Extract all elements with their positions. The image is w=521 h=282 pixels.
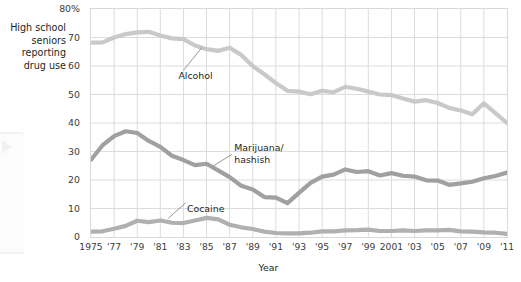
series-label-marijuana: Marijuana/ hashish bbox=[234, 142, 283, 165]
y-tick-10: 10 bbox=[44, 203, 80, 214]
y-tick-80: 80% bbox=[44, 3, 80, 14]
y-tick-60: 60 bbox=[44, 60, 80, 71]
x-axis-title: Year bbox=[0, 262, 521, 273]
y-tick-40: 40 bbox=[44, 117, 80, 128]
chart-figure: High school seniors reporting drug use 0… bbox=[0, 0, 521, 282]
decorative-edge-shape bbox=[0, 132, 24, 254]
series-label-alcohol: Alcohol bbox=[178, 70, 212, 81]
y-tick-70: 70 bbox=[44, 32, 80, 43]
annotation-leader-line bbox=[183, 47, 201, 70]
plot-area bbox=[90, 8, 508, 238]
x-tick-2011: '11 bbox=[487, 241, 521, 252]
y-tick-30: 30 bbox=[44, 146, 80, 157]
plot-svg bbox=[91, 9, 507, 237]
series-label-cocaine: Cocaine bbox=[187, 203, 225, 214]
y-tick-50: 50 bbox=[44, 89, 80, 100]
caption-line-3: reporting bbox=[0, 47, 66, 60]
y-tick-20: 20 bbox=[44, 174, 80, 185]
